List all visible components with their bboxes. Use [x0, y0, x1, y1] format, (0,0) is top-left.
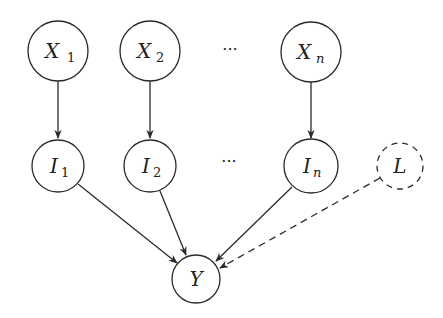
node-i2-sub: 2 [153, 165, 161, 180]
node-l: L [377, 143, 423, 189]
node-x1-label: X [43, 39, 60, 63]
node-y: Y [172, 255, 220, 303]
node-y-label: Y [189, 267, 204, 291]
node-xn-sub: n [316, 51, 324, 66]
node-i2: I 2 [124, 140, 176, 192]
node-x1-sub: 1 [67, 50, 75, 65]
ellipsis-mid: ··· [221, 152, 236, 171]
edge-in-y [216, 187, 292, 261]
node-x2: X 2 [120, 21, 180, 81]
edge-i2-y [160, 191, 186, 255]
node-i1: I 1 [32, 140, 84, 192]
node-in-label: I [302, 154, 312, 178]
node-x2-label: X [135, 39, 152, 63]
node-in-sub: n [313, 165, 321, 180]
node-in: I n [284, 139, 338, 193]
node-i1-sub: 1 [61, 165, 69, 180]
edge-l-y [220, 178, 380, 268]
node-xn-label: X [295, 40, 312, 64]
ellipsis-top: ··· [222, 40, 237, 59]
node-xn: X n [281, 22, 341, 82]
node-x2-sub: 2 [156, 50, 164, 65]
node-l-label: L [392, 154, 406, 178]
node-i2-label: I [141, 154, 151, 178]
node-x1: X 1 [28, 21, 88, 81]
diagram-canvas: X 1 X 2 ··· X n I 1 I 2 ··· I n L Y [0, 0, 443, 318]
node-i1-label: I [49, 154, 59, 178]
